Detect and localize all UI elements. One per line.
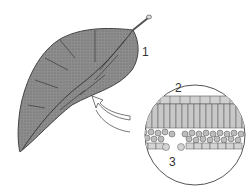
cross-section-magnification xyxy=(140,85,248,185)
leaf-diagram xyxy=(0,0,248,189)
label-1: 1 xyxy=(142,46,149,58)
leaf-illustration xyxy=(18,15,151,152)
leaf-blade xyxy=(18,28,138,152)
petiole xyxy=(133,18,148,30)
magnify-arrow xyxy=(92,96,130,120)
label-2: 2 xyxy=(175,82,182,94)
label-3: 3 xyxy=(169,156,176,168)
